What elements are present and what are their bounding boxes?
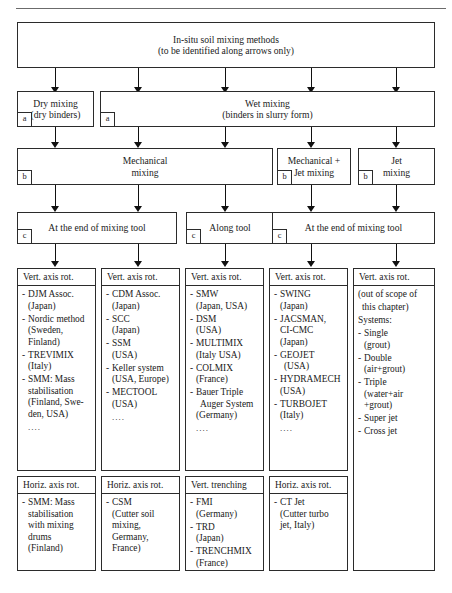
item-line: TURBOJET <box>280 399 345 410</box>
item-line: (Japan) <box>280 337 345 348</box>
tag-b-jet-mixing: b <box>358 170 373 185</box>
item-line: stabilisation <box>28 386 93 397</box>
item-line: GEOJET <box>280 350 345 361</box>
column-3-top-box: Vert. axis rot. -SMW(Japan, USA) -DSM(US… <box>185 268 264 471</box>
item-line: .... <box>112 412 177 423</box>
node-mechanical-jet-mixing-line-1: Mechanical + <box>288 155 341 166</box>
list-item: -TRD(Japan) <box>190 522 261 545</box>
item-line: den, USA) <box>28 409 93 420</box>
item-line: (USA) <box>280 361 345 372</box>
node-wet-mixing-line-1: Wet mixing <box>245 98 290 109</box>
node-root-line-2: (to be identified along arrows only) <box>158 45 294 56</box>
list-item: -CSM(Cutter soilmixing,Germany,France) <box>106 497 177 554</box>
list-item: -Double(air+grout) <box>358 353 432 376</box>
tag-a-dry-mixing: a <box>17 112 32 127</box>
column-1-top-body: -DJM Assoc.(Japan) -Nordic method(Sweden… <box>18 286 95 470</box>
item-line: (Japan) <box>112 301 177 312</box>
item-line: CDM Assoc. <box>112 289 177 300</box>
list-item: -Bauer TripleAuger System(Germany) <box>190 387 261 421</box>
node-at-end-of-mixing-tool-left-label: At the end of mixing tool <box>48 222 145 233</box>
item-line: Nordic method <box>28 314 93 325</box>
column-5-body: (out of scope of this chapter) Systems: … <box>354 286 434 570</box>
node-root: In-situ soil mixing methods (to be ident… <box>17 22 435 68</box>
list-item: .... <box>190 423 261 434</box>
list-item: -HYDRAMECH(USA) <box>274 374 345 397</box>
column-5-header: Vert. axis rot. <box>354 269 434 286</box>
item-line: (Japan) <box>28 301 93 312</box>
item-line: COLMIX <box>196 363 261 374</box>
item-line: .... <box>28 422 93 433</box>
item-line: SCC <box>112 314 177 325</box>
tag-a-wet-mixing: a <box>100 112 115 127</box>
item-line: TRENCHMIX <box>196 546 261 557</box>
item-line: (Germany) <box>196 509 261 520</box>
item-line: (Japan, USA) <box>196 301 261 312</box>
item-line: (USA) <box>280 386 345 397</box>
item-line: (Finland) <box>28 543 93 554</box>
column-3-bottom-box: Vert. trenching -FMI(Germany) -TRD(Japan… <box>185 476 264 571</box>
node-wet-mixing: Wet mixing (binders in slurry form) <box>100 91 435 127</box>
item-line: SWING <box>280 289 345 300</box>
column-5-preamble-line: (out of scope of <box>358 289 432 300</box>
tag-c-at-end-left: c <box>17 229 32 244</box>
item-line: DJM Assoc. <box>28 289 93 300</box>
item-line: MULTIMIX <box>196 338 261 349</box>
list-item: -SMM: Massstabilisationwith mixingdrums(… <box>22 497 93 554</box>
node-jet-mixing-line-2: mixing <box>383 167 410 178</box>
item-line: SMM: Mass <box>28 374 93 385</box>
column-2-bottom-box: Horiz. axis rot. -CSM(Cutter soilmixing,… <box>101 476 180 571</box>
list-item: .... <box>274 423 345 434</box>
item-line: (air+grout) <box>364 364 432 375</box>
node-mechanical-mixing-line-2: mixing <box>131 167 158 178</box>
list-item: -MECTOOL(USA) <box>106 387 177 410</box>
column-2-top-header: Vert. axis rot. <box>102 269 179 286</box>
column-1-bottom-header: Horiz. axis rot. <box>18 477 95 494</box>
item-line: JACSMAN, <box>280 314 345 325</box>
list-item: -Super jet <box>358 413 432 424</box>
item-line: (Cutter soil <box>112 509 177 520</box>
list-item: -CT Jet(Cutter turbojet, Italy) <box>274 497 345 531</box>
list-item: -JACSMAN,CI-CMC(Japan) <box>274 314 345 348</box>
item-line: Bauer Triple <box>196 387 261 398</box>
column-1-top-header: Vert. axis rot. <box>18 269 95 286</box>
list-item: -TREVIMIX(Italy) <box>22 350 93 373</box>
item-line: drums <box>28 532 93 543</box>
column-3-top-body: -SMW(Japan, USA) -DSM(USA) -MULTIMIX(Ita… <box>186 286 263 470</box>
list-item: -Single(grout) <box>358 328 432 351</box>
column-3-bottom-body: -FMI(Germany) -TRD(Japan) -TRENCHMIX(Fra… <box>186 494 263 572</box>
item-line: (USA) <box>112 350 177 361</box>
list-item: -FMI(Germany) <box>190 497 261 520</box>
column-3-bottom-header: Vert. trenching <box>186 477 263 494</box>
item-line: HYDRAMECH <box>280 374 345 385</box>
list-item: -Nordic method(Sweden,Finland) <box>22 314 93 348</box>
arrowhead-c-4 <box>307 261 315 267</box>
item-line: (Japan) <box>196 533 261 544</box>
column-2-bottom-body: -CSM(Cutter soilmixing,Germany,France) <box>102 494 179 570</box>
list-item: -TURBOJET(Italy) <box>274 399 345 422</box>
item-line: CI-CMC <box>280 325 345 336</box>
item-line: (France) <box>196 558 261 569</box>
item-line: (Italy USA) <box>196 350 261 361</box>
item-line: Germany, <box>112 532 177 543</box>
column-5-preamble-line: Systems: <box>358 315 432 326</box>
column-1-bottom-box: Horiz. axis rot. -SMM: Massstabilisation… <box>17 476 96 571</box>
item-line: (water+air <box>364 389 432 400</box>
item-line: SMW <box>196 289 261 300</box>
item-line: DSM <box>196 314 261 325</box>
arrowhead-c-3 <box>221 261 229 267</box>
node-dry-mixing-line-2: (dry binders) <box>31 109 81 120</box>
list-item: -Cross jet <box>358 426 432 437</box>
item-line: SSM <box>112 338 177 349</box>
column-1-bottom-body: -SMM: Massstabilisationwith mixingdrums(… <box>18 494 95 570</box>
item-line: stabilisation <box>28 509 93 520</box>
tag-c-along-tool: c <box>186 229 201 244</box>
item-line: (Japan) <box>112 325 177 336</box>
column-3-top-header: Vert. axis rot. <box>186 269 263 286</box>
item-line: MECTOOL <box>112 387 177 398</box>
item-line: jet, Italy) <box>280 520 345 531</box>
arrowhead-c-1 <box>51 261 59 267</box>
column-4-bottom-header: Horiz. axis rot. <box>270 477 347 494</box>
column-2-bottom-header: Horiz. axis rot. <box>102 477 179 494</box>
list-item: -DJM Assoc.(Japan) <box>22 289 93 312</box>
node-along-tool-label: Along tool <box>209 222 250 233</box>
